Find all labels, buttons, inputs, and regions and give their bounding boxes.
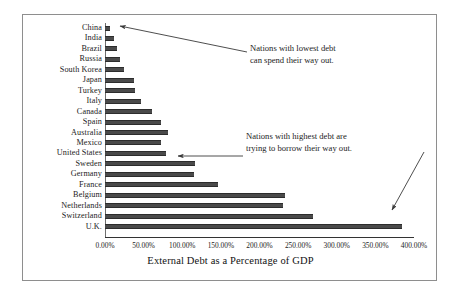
bar (105, 36, 114, 41)
x-tick-label: 400.00% (401, 241, 427, 250)
bar (105, 151, 166, 156)
x-tick-label: 0.00% (95, 241, 114, 250)
bar (105, 120, 161, 125)
bar (105, 99, 141, 104)
x-tick-label: 250.00% (285, 241, 311, 250)
x-tick-label: 150.00% (208, 241, 234, 250)
x-tick-label: 300.00% (324, 241, 350, 250)
bar (105, 130, 168, 135)
annotation-highest-line2: trying to borrow their way out. (246, 143, 352, 155)
x-tick-label: 200.00% (246, 241, 272, 250)
annotation-lowest-line2: can spend their way out. (250, 55, 336, 67)
x-axis-title: External Debt as a Percentage of GDP (23, 255, 438, 266)
x-tick-label: 100.00% (169, 241, 195, 250)
bar (105, 26, 110, 31)
chart-frame: ChinaIndiaBrazilRussiaSouth KoreaJapanTu… (22, 14, 437, 281)
plot-area: ChinaIndiaBrazilRussiaSouth KoreaJapanTu… (23, 15, 438, 282)
bar (105, 57, 120, 62)
bar (105, 182, 218, 187)
bar (105, 78, 134, 83)
bar (105, 224, 402, 229)
bar (105, 88, 135, 93)
bar (105, 161, 195, 166)
annotation-lowest-line1: Nations with lowest debt (250, 43, 336, 55)
x-tick-label: 350.00% (362, 241, 388, 250)
x-tick-label: 50.00% (132, 241, 155, 250)
annotation-lowest-debt: Nations with lowest debt can spend their… (250, 43, 336, 66)
bar (105, 140, 161, 145)
bar (105, 193, 285, 198)
bar (105, 214, 313, 219)
annotation-highest-line1: Nations with highest debt are (246, 131, 352, 143)
bar (105, 46, 117, 51)
bar (105, 67, 124, 72)
bar (105, 172, 194, 177)
annotation-highest-debt: Nations with highest debt are trying to … (246, 131, 352, 154)
bar (105, 109, 152, 114)
bar (105, 203, 283, 208)
